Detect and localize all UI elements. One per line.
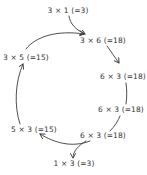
node-5x3: 5 × 3 (=15) bbox=[11, 126, 57, 134]
arrow-n2-to-n3 bbox=[107, 46, 119, 63]
node-6x3-b: 6 × 3 (=18) bbox=[98, 106, 144, 114]
cycle-diagram: 3 × 1 (=3) 3 × 6 (=18) 6 × 3 (=18) 6 × 3… bbox=[0, 0, 147, 175]
node-3x1: 3 × 1 (=3) bbox=[48, 7, 89, 15]
node-3x5: 3 × 5 (=15) bbox=[3, 54, 49, 62]
node-1x3: 1 × 3 (=3) bbox=[54, 160, 95, 168]
node-6x3-a: 6 × 3 (=18) bbox=[100, 73, 146, 81]
diagram-edges bbox=[0, 0, 147, 175]
arrow-n1-to-n2 bbox=[69, 16, 85, 34]
arrow-n7-to-n8 bbox=[16, 64, 23, 124]
node-3x6: 3 × 6 (=18) bbox=[80, 37, 126, 45]
node-6x3-c: 6 × 3 (=18) bbox=[80, 132, 126, 140]
line-n4-to-n5 bbox=[110, 116, 120, 131]
line-n3-to-n4 bbox=[126, 83, 127, 104]
arrow-n8-to-n2 bbox=[26, 33, 84, 49]
